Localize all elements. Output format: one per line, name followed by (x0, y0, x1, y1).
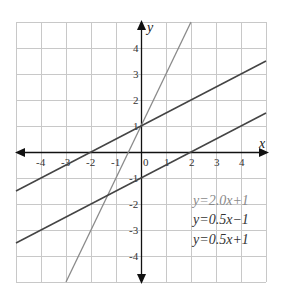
x-tick: 4 (239, 156, 245, 168)
legend: y=2.0x+1 y=0.5x−1 y=0.5x+1 (191, 193, 264, 247)
legend-entry-minus: y=0.5x−1 (191, 212, 249, 227)
legend-entry-steep: y=2.0x+1 (191, 193, 249, 208)
x-tick: -1 (111, 156, 120, 168)
y-tick: 4 (133, 42, 139, 54)
y-axis-label: y (145, 20, 154, 35)
legend-entry-plus: y=0.5x+1 (191, 232, 249, 247)
coordinate-plane: y x -4 -3 -2 -1 0 1 2 3 4 4 3 2 1 -1 -2 … (0, 0, 281, 293)
y-tick: 3 (133, 68, 139, 80)
y-tick: -2 (129, 198, 138, 210)
x-tick: -2 (86, 156, 95, 168)
x-axis-label: x (258, 136, 266, 151)
x-tick: 0 (143, 156, 149, 168)
y-tick: -4 (129, 250, 139, 262)
x-tick: 2 (189, 156, 195, 168)
x-tick: -4 (36, 156, 46, 168)
y-tick: -3 (129, 224, 139, 236)
y-axis-up-arrow-icon (137, 20, 146, 30)
y-tick: 2 (133, 94, 139, 106)
x-tick-labels: -4 -3 -2 -1 0 1 2 3 4 (36, 156, 245, 168)
x-tick: 3 (214, 156, 220, 168)
